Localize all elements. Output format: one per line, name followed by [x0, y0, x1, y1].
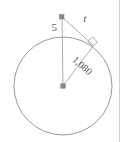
diagram-canvas: 5 t 1,080	[0, 0, 125, 142]
geometry-figure: 5 t 1,080	[0, 0, 125, 142]
external-point-dot	[60, 15, 64, 19]
label-tangent: t	[84, 13, 87, 24]
label-external-segment: 5	[52, 21, 58, 33]
center-point-dot	[61, 84, 65, 88]
